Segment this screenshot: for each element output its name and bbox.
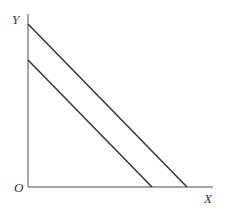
y-axis-label: Y: [12, 12, 21, 27]
inner-line: [28, 60, 152, 187]
x-axis-label: X: [203, 191, 213, 206]
outer-line: [28, 24, 187, 187]
origin-label: O: [14, 180, 24, 195]
diagram-canvas: Y O X: [0, 0, 228, 221]
